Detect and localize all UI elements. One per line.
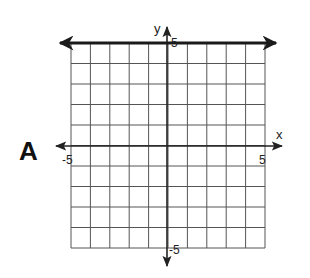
answer-choice-label: A: [19, 136, 38, 166]
x-max-tick-label: 5: [259, 153, 266, 167]
y-axis-label: y: [154, 21, 161, 36]
x-axis-label: x: [276, 127, 283, 142]
x-min-tick-label: -5: [62, 153, 73, 167]
y-min-tick-label: -5: [169, 243, 180, 257]
coordinate-graph: y x 5 -5 -5 5 A: [0, 0, 310, 278]
y-max-tick-label: 5: [171, 36, 178, 50]
